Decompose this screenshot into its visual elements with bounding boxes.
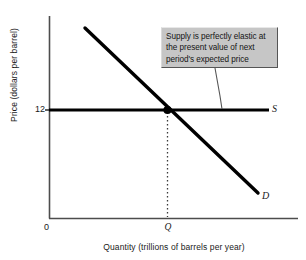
x-axis-tick-label-q: Q	[159, 222, 177, 232]
y-axis-tick-label-12: 12	[30, 104, 45, 114]
callout-leader-line	[215, 68, 222, 109]
demand-curve-label: D	[262, 190, 269, 201]
callout-line-2: the present value of next	[166, 42, 273, 53]
equilibrium-point-marker	[163, 106, 171, 114]
callout-line-1: Supply is perfectly elastic at	[166, 31, 273, 42]
supply-curve-label: S	[272, 103, 277, 114]
supply-callout-box: Supply is perfectly elastic at the prese…	[161, 27, 278, 68]
supply-callout-text: Supply is perfectly elastic at the prese…	[166, 31, 273, 65]
y-axis-title: Price (dollars per barrel)	[9, 15, 19, 135]
x-axis-title: Quantity (trillions of barrels per year)	[49, 242, 299, 252]
callout-line-3: period's expected price	[166, 54, 273, 65]
origin-label: 0	[37, 222, 49, 232]
economics-supply-demand-figure: Price (dollars per barrel) Quantity (tri…	[0, 0, 306, 260]
